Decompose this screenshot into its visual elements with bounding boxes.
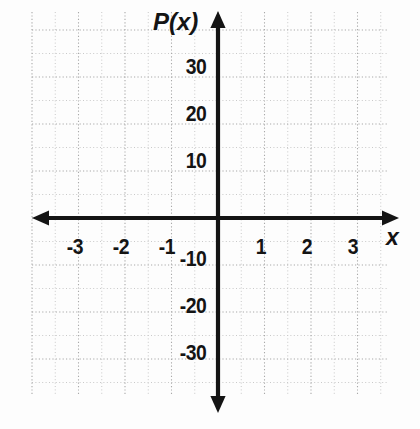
x-tick-label-2: 2 — [289, 236, 324, 258]
y-tick-label-10: 10 — [168, 150, 207, 172]
x-tick-label-3: 3 — [335, 236, 370, 258]
y-tick-label-30: 30 — [168, 56, 207, 78]
x-tick-label-1: 1 — [243, 236, 278, 258]
coordinate-plane-figure: P(x) x 302010-10-20-30-3-2-1123 — [0, 0, 420, 429]
y-axis-label: P(x) — [153, 10, 198, 34]
y-tick-label-20: 20 — [168, 103, 207, 125]
x-tick-label-neg2: -2 — [103, 236, 138, 258]
axes-group — [32, 11, 399, 413]
x-axis-label: x — [386, 226, 399, 249]
y-tick-label-neg30: -30 — [168, 342, 207, 364]
x-tick-label-neg1: -1 — [149, 236, 184, 258]
x-tick-label-neg3: -3 — [57, 236, 92, 258]
y-tick-label-neg20: -20 — [168, 295, 207, 317]
axis-layer — [0, 0, 420, 429]
